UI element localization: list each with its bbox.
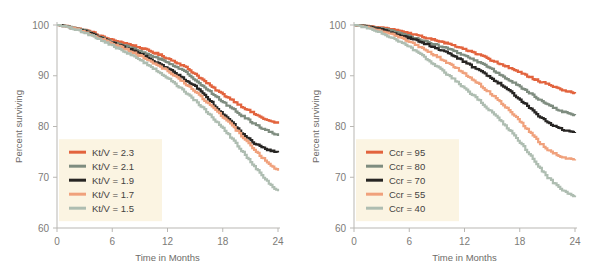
x-tick-label: 18 [514, 236, 526, 247]
legend-label: Kt/V = 1.5 [92, 203, 134, 214]
y-tick-label: 80 [38, 121, 50, 132]
legend-label: Kt/V = 2.3 [92, 147, 134, 158]
y-tick-label: 90 [38, 70, 50, 81]
y-tick-label: 100 [329, 20, 346, 31]
legend-label: Ccr = 70 [389, 175, 425, 186]
x-tick-label: 6 [406, 236, 412, 247]
series-curve [57, 25, 278, 124]
y-tick-label: 70 [335, 172, 347, 183]
legend-label: Kt/V = 1.9 [92, 175, 134, 186]
legend-label: Ccr = 55 [389, 189, 425, 200]
series-curve [57, 25, 278, 153]
y-tick-label: 60 [38, 223, 50, 234]
series-curve [354, 25, 575, 132]
legend-label: Ccr = 95 [389, 147, 425, 158]
x-tick-label: 0 [54, 236, 60, 247]
y-tick-label: 100 [32, 20, 49, 31]
y-tick-label: 70 [38, 172, 50, 183]
legend-label: Ccr = 40 [389, 203, 425, 214]
legend-label: Kt/V = 2.1 [92, 161, 134, 172]
y-axis-title: Percent surviving [13, 90, 24, 163]
series-curve [354, 25, 575, 115]
x-axis-title: Time in Months [432, 252, 497, 263]
x-tick-label: 12 [459, 236, 471, 247]
x-tick-label: 0 [351, 236, 357, 247]
y-axis-title: Percent surviving [310, 90, 321, 163]
y-tick-label: 60 [335, 223, 347, 234]
right-panel: 6070809010006121824Time in MonthsPercent… [297, 0, 594, 277]
legend-label: Kt/V = 1.7 [92, 189, 134, 200]
series-curve [57, 25, 278, 136]
x-tick-label: 6 [109, 236, 115, 247]
x-tick-label: 24 [569, 236, 581, 247]
left-panel-plot: 6070809010006121824Time in MonthsPercent… [0, 0, 297, 277]
x-tick-label: 24 [272, 236, 284, 247]
right-panel-plot: 6070809010006121824Time in MonthsPercent… [297, 0, 594, 277]
left-panel: 6070809010006121824Time in MonthsPercent… [0, 0, 297, 277]
x-axis-title: Time in Months [135, 252, 200, 263]
y-tick-label: 80 [335, 121, 347, 132]
y-tick-label: 90 [335, 70, 347, 81]
survival-curves-figure: 6070809010006121824Time in MonthsPercent… [0, 0, 594, 277]
x-tick-label: 12 [162, 236, 174, 247]
x-tick-label: 18 [217, 236, 229, 247]
legend-label: Ccr = 80 [389, 161, 425, 172]
